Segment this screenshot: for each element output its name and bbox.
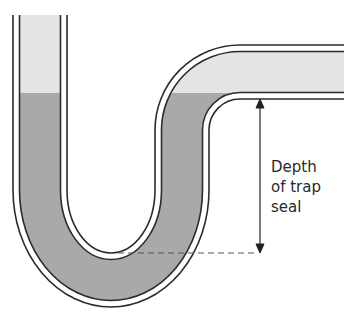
depth-arrow [256, 99, 264, 253]
label-line-2: of trap [271, 177, 321, 197]
label-line-3: seal [271, 197, 321, 217]
label-line-1: Depth [271, 157, 321, 177]
depth-of-trap-seal-label: Depth of trap seal [271, 157, 321, 217]
